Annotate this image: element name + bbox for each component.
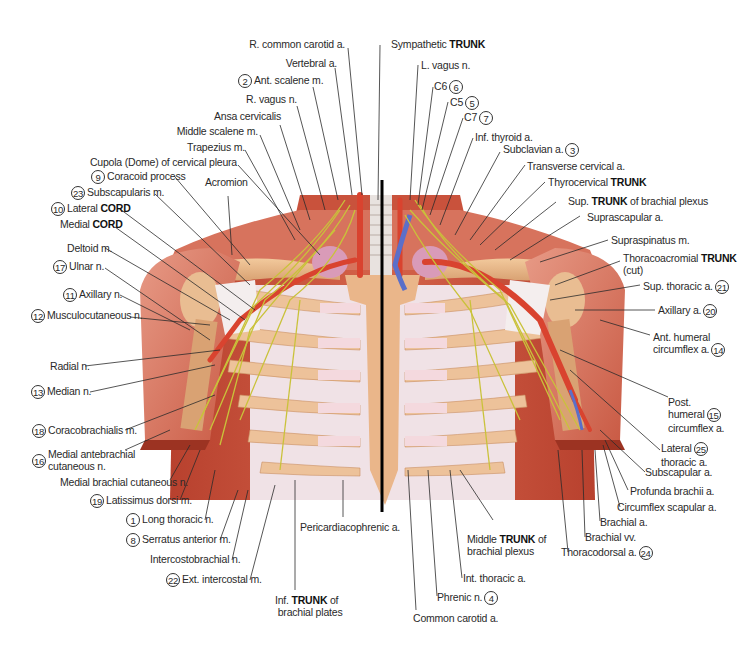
label-r-common-carotid: R. common carotid a.: [249, 38, 345, 50]
label-deltoid: Deltoid m.: [67, 242, 112, 254]
number-badge: 1: [126, 513, 140, 527]
label-suprascapular: Suprascapular a.: [587, 211, 663, 223]
label-acromion: Acromion: [205, 176, 248, 188]
label-middle-scalene: Middle scalene m.: [177, 125, 258, 137]
label-subclavian: Subclavian a.3: [503, 143, 581, 157]
number-badge: 18: [32, 424, 46, 438]
number-badge: 3: [565, 143, 579, 157]
label-ulnar-n: 17Ulnar n.: [51, 260, 104, 274]
label-radial-n: Radial n.: [50, 360, 90, 372]
label-supraspinatus: Supraspinatus m.: [611, 234, 690, 246]
number-badge: 16: [32, 454, 46, 468]
label-c5: C55: [450, 96, 481, 110]
label-medial-cord: Medial CORD: [60, 218, 123, 230]
number-badge: 21: [715, 280, 729, 294]
number-badge: 20: [703, 304, 717, 318]
label-c6: C66: [434, 80, 465, 94]
label-middle-trunk: Middle TRUNK ofbrachial plexus: [467, 533, 546, 557]
number-badge: 19: [90, 494, 104, 508]
label-sup-trunk: Sup. TRUNK of brachial plexus: [568, 195, 708, 207]
label-phrenic-n: Phrenic n.4: [437, 591, 500, 605]
label-brachial-vv: Brachial vv.: [585, 531, 636, 543]
label-intercostobrachial: Intercostobrachial n.: [150, 553, 240, 565]
label-c7: C77: [464, 111, 495, 125]
label-axillary-n: 11Axillary n.: [61, 288, 122, 302]
number-badge: 23: [71, 186, 85, 200]
number-badge: 4: [484, 591, 498, 605]
label-vertebral-a: Vertebral a.: [286, 57, 337, 69]
label-sup-thoracic: Sup. thoracic a.21: [643, 280, 731, 294]
label-median-n: 13Median n.: [29, 385, 91, 399]
number-badge: 22: [166, 573, 180, 587]
label-musculocutaneous: 12Musculocutaneous n.: [29, 309, 142, 323]
label-coracobrachialis: 18Coracobrachialis m.: [30, 424, 137, 438]
label-circumflex-scapular: Circumflex scapular a.: [617, 501, 716, 513]
label-int-thoracic: Int. thoracic a.: [463, 572, 526, 584]
label-ant-humeral-circumflex: Ant. humeralcircumflex a.14: [653, 331, 727, 357]
label-subscapular-a: Subscapular a.: [645, 466, 712, 478]
label-r-vagus: R. vagus n.: [246, 93, 297, 105]
label-lateral-cord: 10Lateral CORD: [49, 202, 131, 216]
label-ant-scalene: 2Ant. scalene m.: [236, 74, 323, 88]
label-l-vagus: L. vagus n.: [421, 59, 470, 71]
label-thoracoacromial-trunk: Thoracoacromial TRUNK(cut): [623, 252, 737, 276]
label-latissimus-dorsi: 19Latissimus dorsi m.: [88, 494, 192, 508]
label-medial-antebrachial-cutaneous: 16Medial antebrachialcutaneous n.: [30, 448, 135, 472]
label-medial-brachial-cutaneous: Medial brachial cutaneous n.: [60, 476, 188, 488]
number-badge: 2: [238, 74, 252, 88]
number-badge: 17: [53, 260, 67, 274]
label-cupola: Cupola (Dome) of cervical pleura: [90, 156, 237, 168]
number-badge: 14: [711, 343, 725, 357]
label-brachial-a: Brachial a.: [600, 516, 647, 528]
label-axillary-a: Axillary a.20: [658, 304, 719, 318]
label-transverse-cervical: Transverse cervical a.: [527, 160, 625, 172]
number-badge: 8: [126, 533, 140, 547]
label-ansa-cervicalis: Ansa cervicalis: [214, 110, 281, 122]
label-thyrocervical-trunk: Thyrocervical TRUNK: [548, 176, 646, 188]
label-coracoid-process: 9Coracoid process: [89, 170, 186, 184]
anatomy-figure: R. common carotid a. Vertebral a. 2Ant. …: [0, 0, 745, 648]
label-long-thoracic: 1Long thoracic n.: [124, 513, 214, 527]
number-badge: 13: [31, 385, 45, 399]
number-badge: 25: [694, 442, 708, 456]
number-badge: 12: [31, 309, 45, 323]
label-post-humeral-circumflex: Post.humeral15circumflex a.: [668, 396, 724, 434]
humerus-left: [180, 272, 220, 328]
number-badge: 10: [51, 202, 65, 216]
number-badge: 15: [707, 408, 721, 422]
label-inf-trunk: Inf. TRUNK of brachial plates: [275, 594, 342, 618]
number-badge: 5: [465, 96, 479, 110]
label-profunda-brachii: Profunda brachii a.: [630, 485, 714, 497]
label-sympathetic-trunk: Sympathetic TRUNK: [391, 38, 485, 50]
label-thoracodorsal: Thoracodorsal a.24: [561, 546, 655, 560]
number-badge: 7: [479, 111, 493, 125]
number-badge: 11: [63, 288, 77, 302]
label-inf-thyroid: Inf. thyroid a.: [475, 131, 533, 143]
label-lateral-thoracic: Lateral25thoracic a.: [661, 442, 710, 468]
number-badge: 9: [91, 170, 105, 184]
number-badge: 6: [449, 80, 463, 94]
label-ext-intercostal: 22Ext. intercostal m.: [164, 573, 262, 587]
number-badge: 24: [639, 546, 653, 560]
label-pericardiacophrenic: Pericardiacophrenic a.: [300, 521, 400, 533]
label-subscapularis: 23Subscapularis m.: [69, 186, 164, 200]
label-trapezius: Trapezius m.: [187, 141, 245, 153]
label-common-carotid: Common carotid a.: [413, 612, 498, 624]
label-serratus-anterior: 8Serratus anterior m.: [124, 533, 231, 547]
